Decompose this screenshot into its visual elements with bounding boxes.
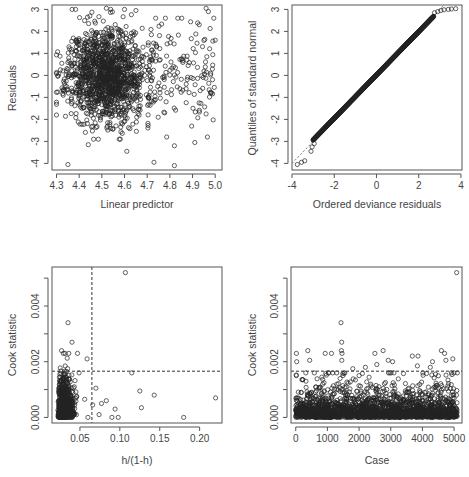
y-tick-label: 2 [30,28,41,34]
x-tick-label: -4 [288,180,297,191]
plot-frame [292,5,462,170]
panel-cook-vs-leverage: h/(1-h) Cook statistic 0.050.100.150.200… [6,267,222,466]
y-tick-label: 0.004 [30,293,41,318]
x-tick-label: 0.10 [110,433,130,444]
x-tick-label: 0 [293,433,299,444]
x-axis-title: h/(1-h) [122,454,153,466]
y-tick-label: -3 [270,137,281,146]
y-tick-label: 0.002 [269,349,280,374]
panel-residuals-vs-linear-predictor: Linear predictor Residuals 4.34.44.54.64… [6,5,223,210]
data-points [54,6,217,168]
x-tick-label: 4000 [411,433,434,444]
y-tick-label: 3 [30,6,41,12]
x-tick-label: 5000 [443,433,466,444]
x-axis-title: Linear predictor [101,198,174,210]
x-tick-label: 0.15 [150,433,170,444]
x-tick-label: 1000 [316,433,339,444]
x-tick-label: 4 [458,180,464,191]
y-tick-label: 0 [270,72,281,78]
y-tick-label: 0.000 [269,404,280,429]
y-axis-title: Residuals [6,65,18,111]
panel-cook-vs-case: Case Cook statistic 01000200030004000500… [246,267,466,466]
panel-normal-qq: Ordered deviance residuals Quantiles of … [246,3,464,210]
y-tick-label: 3 [270,6,281,12]
x-tick-label: 2000 [348,433,371,444]
x-tick-label: 0 [374,180,380,191]
x-tick-label: 4.4 [72,180,86,191]
y-tick-label: 0 [30,72,41,78]
y-tick-label: 0.004 [269,293,280,318]
x-tick-label: 0.20 [190,433,210,444]
x-tick-label: 5.0 [208,180,222,191]
diagnostic-figure: Linear predictor Residuals 4.34.44.54.64… [0,0,469,477]
x-tick-label: 4.9 [186,180,200,191]
data-points [292,3,458,167]
y-tick-label: -2 [270,115,281,124]
x-tick-label: 4.3 [50,180,64,191]
y-tick-label: -1 [270,93,281,102]
y-tick-label: 0.000 [30,404,41,429]
data-points [56,271,218,420]
x-tick-label: 2 [416,180,422,191]
y-tick-label: -2 [30,115,41,124]
x-axis-title: Ordered deviance residuals [313,198,441,210]
x-tick-label: 4.5 [95,180,109,191]
x-tick-label: 3000 [380,433,403,444]
y-axis-title: Cook statistic [6,314,18,376]
y-tick-label: 1 [30,50,41,56]
y-tick-label: -3 [30,137,41,146]
y-tick-label: -4 [30,159,41,168]
y-axis-title: Quantiles of standard normal [246,21,258,156]
x-tick-label: 4.6 [118,180,132,191]
y-tick-label: -4 [270,159,281,168]
data-points [294,271,460,420]
x-tick-label: 4.7 [140,180,154,191]
x-tick-label: 4.8 [163,180,177,191]
x-tick-label: -2 [330,180,339,191]
y-axis-title: Cook statistic [246,314,258,376]
y-tick-label: 0.002 [30,349,41,374]
x-tick-label: 0.05 [70,433,90,444]
y-tick-label: -1 [30,93,41,102]
y-tick-label: 2 [270,28,281,34]
x-axis-title: Case [365,454,390,466]
y-tick-label: 1 [270,50,281,56]
